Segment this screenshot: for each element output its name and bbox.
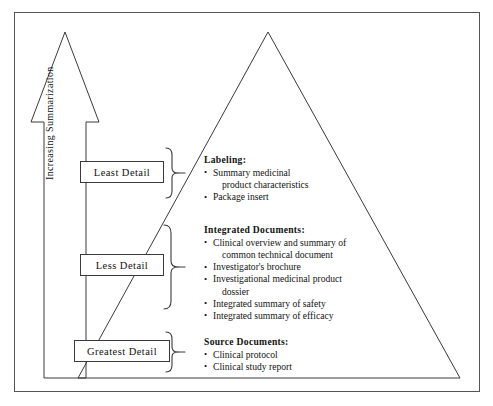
list-item-text: Integrated summary of efficacy bbox=[213, 310, 334, 321]
list-item-text: Summary medicinal bbox=[213, 167, 291, 178]
list-item: Investigator's brochure bbox=[204, 261, 390, 273]
list-item-text: Clinical overview and summary of bbox=[213, 237, 346, 248]
list-item: Clinical overview and summary of common … bbox=[204, 237, 390, 261]
list-item-text: Integrated summary of safety bbox=[213, 298, 326, 309]
list-item-text: Investigator's brochure bbox=[213, 261, 301, 272]
list-item-continuation: common technical document bbox=[213, 249, 390, 261]
list-item: Integrated summary of safety bbox=[204, 298, 390, 310]
detail-level-box-greatest: Greatest Detail bbox=[74, 340, 170, 362]
axis-label-increasing-summarization: Increasing Summarization bbox=[44, 10, 58, 180]
list-item: Summary medicinal product characteristic… bbox=[204, 167, 374, 191]
list-item-text: Investigational medicinal product bbox=[213, 273, 342, 284]
list-item: Clinical study report bbox=[204, 361, 374, 373]
list-item: Package insert bbox=[204, 191, 374, 203]
tier-list-integrated: Clinical overview and summary of common … bbox=[204, 237, 390, 322]
tier-list-labeling: Summary medicinal product characteristic… bbox=[204, 167, 374, 204]
list-item-continuation: dossier bbox=[213, 286, 390, 298]
tier-heading-integrated: Integrated Documents: bbox=[204, 224, 390, 236]
list-item-text: Clinical protocol bbox=[213, 349, 278, 360]
list-item: Investigational medicinal product dossie… bbox=[204, 273, 390, 297]
tier-heading-labeling: Labeling: bbox=[204, 154, 374, 166]
list-item-text: Clinical study report bbox=[213, 361, 292, 372]
increasing-summarization-arrow bbox=[31, 32, 99, 378]
brace-integrated bbox=[164, 225, 178, 309]
list-item: Integrated summary of efficacy bbox=[204, 310, 390, 322]
pyramid-triangle bbox=[78, 32, 460, 378]
detail-level-box-least: Least Detail bbox=[80, 161, 164, 183]
list-item: Clinical protocol bbox=[204, 349, 374, 361]
tier-block-labeling: Labeling: Summary medicinal product char… bbox=[204, 154, 374, 203]
tier-heading-source: Source Documents: bbox=[204, 336, 374, 348]
brace-labeling bbox=[166, 148, 178, 198]
tier-list-source: Clinical protocol Clinical study report bbox=[204, 349, 374, 373]
list-item-continuation: product characteristics bbox=[213, 179, 374, 191]
diagram-canvas: Increasing Summarization Least Detail Le… bbox=[0, 0, 493, 406]
detail-level-box-less: Less Detail bbox=[80, 254, 164, 276]
tier-block-integrated: Integrated Documents: Clinical overview … bbox=[204, 224, 390, 322]
list-item-text: Package insert bbox=[213, 191, 269, 202]
tier-block-source: Source Documents: Clinical protocol Clin… bbox=[204, 336, 374, 373]
